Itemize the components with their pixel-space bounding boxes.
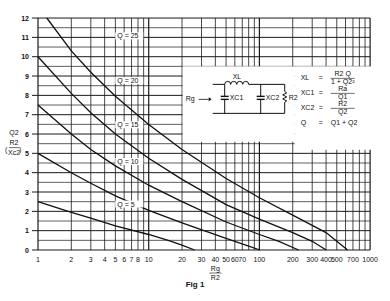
svg-text:=: = (319, 119, 323, 126)
x-tick-label: 200 (287, 256, 299, 263)
y-tick-label: 8 (25, 92, 29, 99)
svg-text:XC2: XC2 (266, 94, 280, 101)
curve-label: Q = 25 (117, 32, 138, 40)
svg-text:=: = (319, 74, 323, 81)
x-tick-label: 500 (331, 256, 343, 263)
x-tick-label: 7 (130, 256, 134, 263)
svg-text:XC1: XC1 (301, 89, 315, 96)
x-tick-label: 5 (113, 256, 117, 263)
y-tick-label: 12 (21, 15, 29, 22)
curve (38, 202, 195, 250)
x-tick-label: 3 (89, 256, 93, 263)
svg-text:=: = (319, 104, 323, 111)
y-tick-label: 4 (25, 169, 29, 176)
x-tick-label: 300 (306, 256, 318, 263)
x-tick-label: 1000 (362, 256, 378, 263)
svg-text:XC2: XC2 (301, 104, 315, 111)
circuit-inset: RgXC1XLXC2R2XL=R2 Q1 + Q2²XC1=RaQ1XC2=R2… (183, 66, 377, 149)
x-tick-label: 20 (178, 256, 186, 263)
y-tick-label: 10 (21, 53, 29, 60)
x-tick-label: 6 (122, 256, 126, 263)
curve-label: Q = 10 (117, 158, 138, 166)
svg-text:=: = (319, 89, 323, 96)
x-tick-label: 10 (145, 256, 153, 263)
x-tick-label: 4 (103, 256, 107, 263)
curve-label: Q = 20 (117, 77, 138, 85)
svg-text:XL: XL (233, 73, 242, 80)
curve-label: Q = 15 (117, 121, 138, 129)
x-tick-label: 2 (69, 256, 73, 263)
curve-label: Q = 5 (117, 201, 134, 209)
y-tick-label: 5 (25, 150, 29, 157)
y-tick-label: 0 (25, 247, 29, 254)
x-tick-label: 40 (211, 256, 219, 263)
svg-text:R2: R2 (338, 100, 347, 107)
y-tick-label: 2 (25, 208, 29, 215)
y-tick-label: 3 (25, 189, 29, 196)
y-tick-label: 6 (25, 131, 29, 138)
svg-text:R2 Q: R2 Q (335, 70, 352, 78)
svg-text:Q: Q (301, 119, 307, 127)
x-tick-label: 8 (136, 256, 140, 263)
svg-text:Ra: Ra (338, 85, 347, 92)
x-tick-label: 30 (198, 256, 206, 263)
svg-text:Rg: Rg (186, 95, 195, 103)
svg-text:R2: R2 (10, 139, 19, 146)
svg-text:Q2: Q2 (338, 108, 347, 116)
x-tick-label: 1 (36, 256, 40, 263)
svg-text:Q1 + Q2: Q1 + Q2 (331, 119, 358, 127)
y-tick-label: 1 (25, 227, 29, 234)
svg-text:Rg: Rg (211, 265, 220, 273)
y-tick-label: 7 (25, 111, 29, 118)
x-tick-label: 50 (222, 256, 230, 263)
y-tick-label: 9 (25, 73, 29, 80)
y-tick-label: 11 (22, 34, 30, 41)
svg-text:): ) (19, 146, 21, 154)
x-tick-label: 100 (254, 256, 266, 263)
svg-text:R2: R2 (289, 94, 298, 101)
svg-text:Q2: Q2 (9, 129, 18, 137)
svg-text:XC1: XC1 (230, 94, 244, 101)
x-tick-label: 700 (347, 256, 359, 263)
figure-caption: Fig 1 (0, 280, 390, 289)
nomograph-chart: 0123456789101112123456781020304050607010… (0, 0, 390, 301)
svg-text:XL: XL (301, 74, 310, 81)
x-tick-label: 70 (238, 256, 246, 263)
